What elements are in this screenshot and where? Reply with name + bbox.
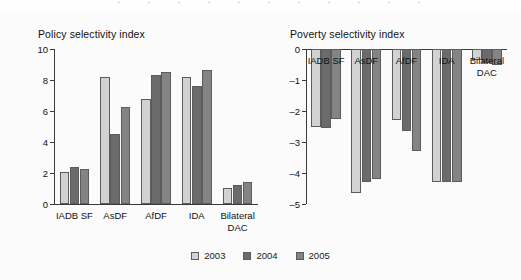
y-tick-label-poverty: –4 — [289, 168, 300, 179]
y-axis-policy — [54, 49, 55, 204]
y-tick-policy — [50, 173, 54, 174]
y-tick-label-policy: 4 — [43, 137, 48, 148]
chart-title-policy: Policy selectivity index — [38, 28, 145, 40]
y-tick-label-policy: 2 — [43, 168, 48, 179]
y-tick-poverty — [302, 111, 306, 112]
x-axis-policy — [54, 204, 258, 205]
y-tick-policy — [50, 49, 54, 50]
legend-swatch-icon — [296, 252, 304, 260]
y-tick-policy — [50, 142, 54, 143]
chart-legend: 200320042005 — [0, 250, 521, 261]
legend-item-2003: 2003 — [191, 250, 225, 261]
y-tick-label-policy: 8 — [43, 75, 48, 86]
y-tick-label-poverty: –5 — [289, 199, 300, 210]
y-tick-poverty — [302, 173, 306, 174]
bar — [141, 99, 151, 204]
chart-policy-selectivity: Policy selectivity index 0246810IADB SFA… — [16, 22, 264, 252]
y-tick-poverty — [302, 80, 306, 81]
bar — [70, 167, 80, 204]
y-tick-poverty — [302, 142, 306, 143]
y-tick-label-policy: 0 — [43, 199, 48, 210]
bar — [161, 72, 171, 204]
bar — [182, 77, 192, 204]
y-tick-label-policy: 6 — [43, 106, 48, 117]
plot-area-policy: 0246810IADB SFAsDFAfDFIDABilateralDAC — [54, 49, 258, 204]
y-axis-poverty — [306, 49, 307, 204]
bar — [442, 49, 452, 182]
legend-label: 2005 — [309, 250, 330, 261]
legend-label: 2004 — [256, 250, 277, 261]
chart-title-poverty: Poverty selectivity index — [290, 28, 405, 40]
x-category-label: BilateralDAC — [457, 55, 517, 79]
y-tick-poverty — [302, 204, 306, 205]
legend-label: 2003 — [204, 250, 225, 261]
legend-item-2005: 2005 — [296, 250, 330, 261]
legend-item-2004: 2004 — [243, 250, 277, 261]
x-category-label: BilateralDAC — [207, 210, 268, 234]
legend-swatch-icon — [243, 252, 251, 260]
bar — [432, 49, 442, 182]
y-tick-policy — [50, 204, 54, 205]
bar — [351, 49, 361, 193]
scan-artifact-strip — [0, 0, 521, 19]
bar — [372, 49, 382, 179]
plot-area-poverty: 0–1–2–3–4–5IADB SFAsDFAfDFIDABilateralDA… — [306, 49, 507, 204]
bar — [80, 169, 90, 204]
figure-container: Policy selectivity index 0246810IADB SFA… — [0, 0, 521, 280]
bar — [121, 107, 131, 204]
y-tick-label-policy: 10 — [37, 44, 48, 55]
bar — [233, 185, 243, 204]
y-tick-poverty — [302, 49, 306, 50]
y-tick-label-poverty: 0 — [295, 44, 300, 55]
y-tick-policy — [50, 111, 54, 112]
y-tick-label-poverty: –3 — [289, 137, 300, 148]
y-tick-label-poverty: –2 — [289, 106, 300, 117]
bar — [151, 75, 161, 204]
chart-poverty-selectivity: Poverty selectivity index 0–1–2–3–4–5IAD… — [268, 22, 513, 252]
bar — [223, 188, 233, 204]
bar — [192, 86, 202, 204]
bar — [110, 134, 120, 204]
y-tick-label-poverty: –1 — [289, 75, 300, 86]
bar — [60, 172, 70, 204]
y-tick-policy — [50, 80, 54, 81]
bar — [202, 70, 212, 204]
legend-swatch-icon — [191, 252, 199, 260]
bar — [243, 182, 253, 204]
bar — [362, 49, 372, 182]
bar — [100, 77, 110, 204]
